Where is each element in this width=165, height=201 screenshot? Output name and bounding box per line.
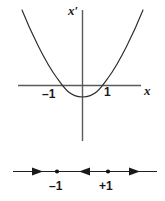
graph-panel [18, 10, 143, 141]
root-label-positive-one: 1 [104, 86, 111, 98]
parabola-phase-line-figure [0, 0, 165, 201]
phase-arrow-right-1 [32, 168, 43, 176]
equilibrium-dot-neg-one [55, 169, 59, 173]
phase-line-label-positive-one: +1 [99, 180, 113, 192]
x-axis-label: x [144, 84, 151, 97]
phase-line-label-negative-one: –1 [49, 180, 62, 192]
phase-arrow-left [79, 168, 90, 176]
root-label-negative-one: –1 [42, 88, 55, 100]
equilibrium-dot-pos-one [106, 169, 110, 173]
y-axis-label: x′ [68, 4, 78, 17]
phase-arrow-right-2 [129, 168, 140, 176]
phase-line-panel [13, 168, 157, 176]
